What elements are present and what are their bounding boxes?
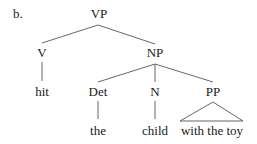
figure-label: b. — [13, 6, 23, 21]
edge-np-pp — [155, 64, 213, 82]
pp-triangle — [180, 102, 243, 121]
node-v: V — [37, 45, 47, 60]
edge-np-det — [98, 64, 155, 82]
syntax-tree-diagram: b. VP V NP hit Det N PP the child with t… — [0, 0, 257, 144]
node-n: N — [150, 84, 160, 99]
node-pp: PP — [206, 84, 220, 99]
leaf-with-the-toy: with the toy — [181, 123, 244, 138]
leaf-child: child — [142, 123, 168, 138]
leaf-the: the — [90, 123, 106, 138]
node-vp: VP — [91, 6, 108, 21]
edge-vp-np — [98, 25, 155, 44]
leaf-hit: hit — [35, 84, 49, 99]
node-det: Det — [89, 84, 108, 99]
node-np: NP — [147, 45, 164, 60]
edge-vp-v — [42, 25, 98, 43]
